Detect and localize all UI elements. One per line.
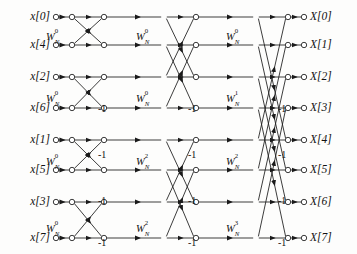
stage1-input-node (69, 167, 74, 172)
minus-one-label-stage2-3: -1 (188, 238, 196, 248)
stage3-output-node (285, 167, 290, 172)
stage1-output-node (101, 167, 106, 172)
output-terminal-node (301, 42, 306, 47)
flow-edge-arrow (166, 172, 182, 211)
stage1-input-node (69, 199, 74, 204)
minus-one-label-stage1-1: -1 (98, 150, 106, 160)
output-label-X0: X[0] (310, 11, 332, 23)
stage2-output-node (193, 42, 198, 47)
stage1-input-node (69, 42, 74, 47)
flow-edge-arrow (258, 95, 274, 168)
stage1-input-node (69, 14, 74, 19)
stage2-output-node (193, 167, 198, 172)
twiddle-factor-stage1-2: W0N (46, 157, 55, 168)
output-label-X1: X[1] (310, 39, 332, 51)
output-label-X4: X[4] (310, 134, 332, 146)
output-label-X5: X[5] (310, 164, 332, 176)
input-label-x4: x[4] (12, 39, 50, 51)
stage2-output-node (193, 137, 198, 142)
flow-edge-arrow (258, 160, 274, 236)
stage3-output-node (285, 137, 290, 142)
flow-edge-arrow (74, 217, 90, 237)
output-label-X6: X[6] (310, 196, 332, 208)
output-terminal-node (301, 167, 306, 172)
minus-one-label-stage2-1: -1 (188, 150, 196, 160)
input-label-x2: x[2] (12, 71, 50, 83)
flow-edge (275, 90, 286, 138)
flow-edge (183, 172, 194, 198)
minus-one-label-stage3-0: -1 (278, 104, 286, 114)
minus-one-label-stage1-3: -1 (98, 238, 106, 248)
flow-edge-arrow (166, 198, 182, 237)
flow-edge-arrow (166, 19, 182, 53)
twiddle-factor-stage1-1: W0N (46, 94, 55, 105)
twiddle-factor-stage1-0: W0N (46, 32, 55, 43)
flow-edge (183, 19, 194, 42)
stage1-input-node (69, 235, 74, 240)
minus-one-label-stage3-2: -1 (278, 196, 286, 206)
stage2-output-node (193, 14, 198, 19)
input-label-x0: x[0] (12, 11, 50, 23)
flow-edge-arrow (74, 29, 90, 44)
fft-butterfly-diagram: x[0] x[4] x[2] x[6] x[1] x[5] x[3] x[7] … (0, 0, 357, 254)
output-terminal-node (301, 74, 306, 79)
minus-one-label-stage2-0: -1 (188, 104, 196, 114)
flow-edge-arrow (74, 152, 90, 168)
stage3-output-node (285, 42, 290, 47)
flow-edge-arrow (258, 110, 274, 186)
flow-edge-arrow (74, 90, 90, 107)
output-terminal-node (301, 137, 306, 142)
twiddle-factor-stage2-3: W2N (136, 224, 145, 235)
flow-edge (183, 53, 194, 76)
input-terminal-node (53, 14, 58, 19)
stage1-output-node (101, 137, 106, 142)
flow-edge-arrow (258, 127, 274, 200)
twiddle-factor-stage2-2: W2N (136, 157, 145, 168)
output-terminal-node (301, 235, 306, 240)
flow-edge (183, 47, 194, 71)
flow-edge-arrow (166, 142, 182, 177)
minus-one-label-stage3-1: -1 (278, 150, 286, 160)
stage2-output-node (193, 74, 198, 79)
minus-one-label-stage2-2: -1 (188, 196, 196, 206)
minus-one-label-stage1-0: -1 (98, 104, 106, 114)
stage3-output-node (285, 74, 290, 79)
twiddle-factor-stage2-0: W0N (136, 32, 145, 43)
twiddle-factor-stage2-1: W0N (136, 94, 145, 105)
flow-edge-arrow (258, 47, 274, 120)
flow-edge-arrow (166, 71, 182, 107)
flow-edge (91, 223, 102, 236)
twiddle-factor-stage3-0: W0N (226, 32, 235, 43)
flow-edge (91, 19, 102, 29)
output-label-X2: X[2] (310, 71, 332, 83)
flow-edge (91, 33, 102, 43)
minus-one-label-stage1-2: -1 (98, 196, 106, 206)
input-label-x1: x[1] (12, 134, 50, 146)
input-label-x7: x[7] (12, 232, 50, 244)
input-terminal-node (53, 74, 58, 79)
flow-edge-arrow (258, 79, 274, 152)
input-label-x6: x[6] (12, 102, 50, 114)
stage1-input-node (69, 137, 74, 142)
flow-edge-arrow (166, 41, 182, 75)
minus-one-label-stage3-3: -1 (278, 238, 286, 248)
input-label-x3: x[3] (12, 196, 50, 208)
flow-edge-arrow (258, 19, 274, 91)
input-label-x5: x[5] (12, 164, 50, 176)
flow-edge (91, 79, 102, 90)
stage1-input-node (69, 105, 74, 110)
output-terminal-node (301, 14, 306, 19)
output-terminal-node (301, 199, 306, 204)
input-terminal-node (53, 199, 58, 204)
flow-edge (275, 120, 286, 169)
twiddle-factor-stage3-1: W1N (226, 94, 235, 105)
twiddle-factor-stage1-3: W0N (46, 224, 55, 235)
output-label-X7: X[7] (310, 232, 332, 244)
flow-edge (275, 47, 286, 96)
input-terminal-node (53, 137, 58, 142)
output-terminal-node (301, 105, 306, 110)
twiddle-factor-stage3-3: W3N (226, 224, 235, 235)
flow-edge (183, 210, 194, 236)
stage3-output-node (285, 14, 290, 19)
stage1-output-node (101, 14, 106, 19)
